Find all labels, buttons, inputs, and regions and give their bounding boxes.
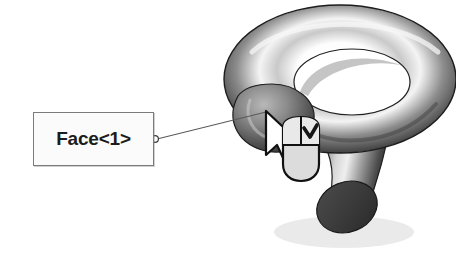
screenshot-canvas: Face<1>	[0, 0, 456, 261]
mouse-right-click-icon[interactable]	[0, 0, 456, 261]
